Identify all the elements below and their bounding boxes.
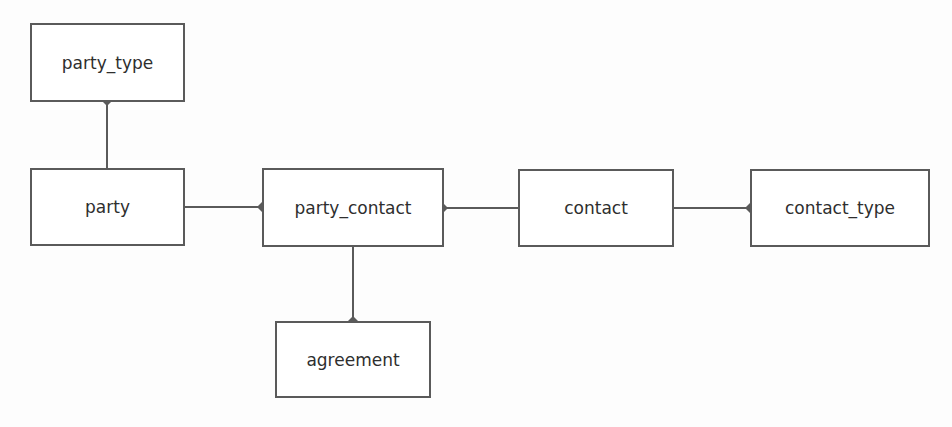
entity-party-contact[interactable]: party_contact [262,168,444,247]
entity-label: agreement [306,350,399,370]
entity-label: party_contact [294,198,411,218]
entity-agreement[interactable]: agreement [275,321,431,398]
entity-contact-type[interactable]: contact_type [750,169,930,247]
entity-label: contact [564,198,628,218]
entity-party-type[interactable]: party_type [30,23,185,102]
entity-label: party [85,197,130,217]
entity-label: contact_type [785,198,895,218]
entity-contact[interactable]: contact [518,169,674,247]
entity-label: party_type [62,53,153,73]
entity-party[interactable]: party [30,168,185,246]
